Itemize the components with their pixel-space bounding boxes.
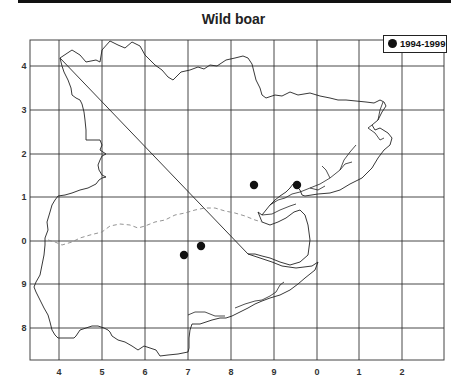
axis-tick-labels: 4567890124321098 xyxy=(21,61,404,377)
y-tick-label: 9 xyxy=(21,279,26,289)
y-tick-label: 8 xyxy=(21,323,26,333)
grid-lines xyxy=(30,40,444,360)
y-tick-label: 0 xyxy=(21,236,26,246)
y-tick-label: 2 xyxy=(21,149,26,159)
x-tick-label: 9 xyxy=(271,367,276,377)
legend-label: 1994-1999 xyxy=(400,38,445,49)
x-tick-label: 4 xyxy=(56,367,61,377)
y-tick-label: 4 xyxy=(21,61,26,71)
x-tick-label: 0 xyxy=(314,367,319,377)
map-frame xyxy=(30,40,444,360)
y-tick-label: 3 xyxy=(21,105,26,115)
county-boundary xyxy=(34,41,392,356)
legend-dot-icon xyxy=(388,39,397,48)
x-tick-label: 1 xyxy=(356,367,361,377)
x-tick-label: 8 xyxy=(228,367,233,377)
dashed-boundary xyxy=(48,208,262,245)
legend: 1994-1999 xyxy=(383,35,447,53)
x-tick-label: 5 xyxy=(99,367,104,377)
record-dot xyxy=(197,242,205,250)
record-dot xyxy=(293,181,301,189)
record-dot xyxy=(180,251,188,259)
record-dot xyxy=(250,181,258,189)
y-tick-label: 1 xyxy=(21,192,26,202)
x-tick-label: 2 xyxy=(399,367,404,377)
distribution-map: 4567890124321098 xyxy=(0,0,467,390)
x-tick-label: 6 xyxy=(142,367,147,377)
x-tick-label: 7 xyxy=(185,367,190,377)
